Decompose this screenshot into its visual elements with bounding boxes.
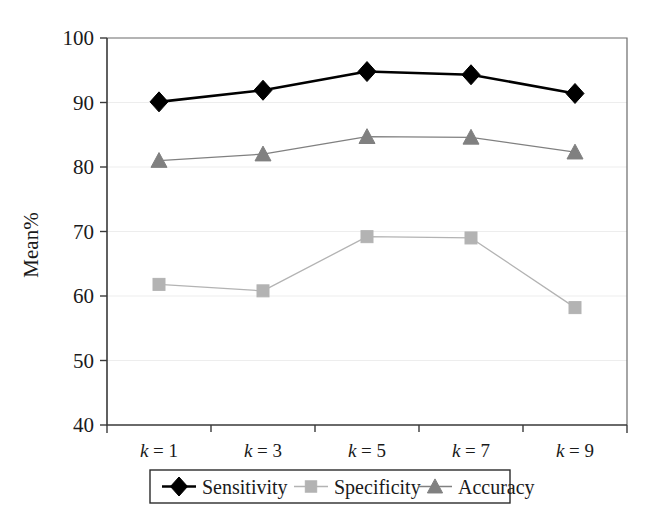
- y-axis-ticks: [100, 38, 107, 425]
- line-chart: 405060708090100 k = 1k = 3k = 5k = 7k = …: [0, 0, 658, 531]
- data-point-marker-diamond: [254, 80, 272, 100]
- series-accuracy: [151, 129, 583, 168]
- y-tick-label: 100: [63, 26, 95, 50]
- y-tick-label: 80: [73, 155, 94, 179]
- series-group: [150, 62, 584, 314]
- y-tick-label: 40: [73, 413, 94, 437]
- y-tick-label: 70: [73, 220, 94, 244]
- series-line: [159, 237, 575, 308]
- data-point-marker-square: [153, 278, 165, 290]
- y-tick-label: 50: [73, 349, 94, 373]
- data-point-marker-diamond: [358, 62, 376, 82]
- data-point-marker-square: [305, 481, 316, 492]
- series-specificity: [153, 231, 581, 314]
- y-axis-tick-labels: 405060708090100: [63, 26, 95, 437]
- data-point-marker-diamond: [150, 92, 168, 112]
- data-point-marker-square: [257, 285, 269, 297]
- x-axis-category-labels: k = 1k = 3k = 5k = 7k = 9: [140, 440, 594, 461]
- y-tick-label: 60: [73, 284, 94, 308]
- x-category-label: k = 7: [452, 440, 490, 461]
- y-axis-title: Mean%: [19, 212, 43, 277]
- legend-label: Specificity: [334, 476, 421, 499]
- data-point-marker-square: [361, 231, 373, 243]
- chart-figure: 405060708090100 k = 1k = 3k = 5k = 7k = …: [0, 0, 658, 531]
- chart-legend: SensitivitySpecificityAccuracy: [150, 470, 535, 503]
- x-axis-ticks: [107, 425, 627, 433]
- x-category-label: k = 9: [556, 440, 594, 461]
- data-point-marker-diamond: [462, 65, 480, 85]
- x-category-label: k = 1: [140, 440, 178, 461]
- series-sensitivity: [150, 62, 584, 112]
- x-category-label: k = 3: [244, 440, 282, 461]
- legend-label: Sensitivity: [202, 476, 288, 499]
- data-point-marker-diamond: [566, 83, 584, 103]
- data-point-marker-square: [465, 232, 477, 244]
- data-point-marker-square: [569, 302, 581, 314]
- x-category-label: k = 5: [348, 440, 386, 461]
- y-tick-label: 90: [73, 91, 94, 115]
- legend-label: Accuracy: [458, 476, 535, 499]
